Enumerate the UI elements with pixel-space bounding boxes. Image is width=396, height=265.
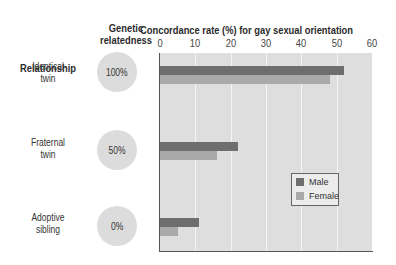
legend-label-male: Male: [309, 177, 329, 187]
male-swatch-icon: [296, 178, 304, 186]
relatedness-value: 0%: [111, 221, 123, 232]
bar-adoptive-female: [160, 227, 178, 236]
bar-identical-male: [160, 66, 344, 75]
row-label-line2: twin: [14, 149, 82, 161]
legend-item-female: Female: [296, 191, 339, 201]
y-axis-line: [159, 53, 160, 252]
x-tick-20: 20: [223, 37, 240, 49]
female-swatch-icon: [296, 192, 304, 200]
x-axis-line: [159, 251, 373, 252]
bar-fraternal-female: [160, 151, 217, 160]
row-label-line2: sibling: [14, 224, 82, 236]
relatedness-value: 50%: [108, 145, 125, 156]
bar-identical-female: [160, 75, 330, 84]
relatedness-circle-fraternal: 50%: [97, 130, 137, 170]
x-tick-60: 60: [364, 37, 381, 49]
gridline-50: [337, 53, 338, 252]
row-label-line1: Fraternal: [14, 137, 82, 149]
row-label-identical-twin: Identical twin: [14, 61, 82, 85]
relatedness-circle-adoptive: 0%: [97, 206, 137, 246]
legend-item-male: Male: [296, 177, 329, 187]
x-tick-50: 50: [329, 37, 346, 49]
legend: Male Female: [291, 173, 339, 206]
bar-fraternal-male: [160, 142, 238, 151]
chart-title: Concordance rate (%) for gay sexual orie…: [140, 24, 359, 36]
row-label-line1: Adoptive: [14, 212, 82, 224]
x-tick-0: 0: [152, 37, 169, 49]
row-label-line1: Identical: [14, 61, 82, 73]
relatedness-value: 100%: [106, 67, 128, 78]
bar-adoptive-male: [160, 218, 199, 227]
x-tick-10: 10: [187, 37, 204, 49]
row-label-fraternal-twin: Fraternal twin: [14, 137, 82, 161]
row-label-adoptive-sibling: Adoptive sibling: [14, 212, 82, 236]
x-tick-40: 40: [293, 37, 310, 49]
x-tick-30: 30: [258, 37, 275, 49]
legend-label-female: Female: [309, 191, 339, 201]
row-label-line2: twin: [14, 73, 82, 85]
relatedness-circle-identical: 100%: [97, 52, 137, 92]
